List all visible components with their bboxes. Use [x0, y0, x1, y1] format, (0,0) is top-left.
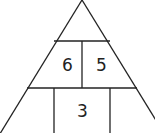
- cell-row3-middle: 3: [77, 101, 88, 121]
- number-pyramid: 6 5 3: [0, 0, 155, 133]
- cell-row2-left: 6: [62, 55, 73, 75]
- pyramid-right-edge: [82, 0, 155, 122]
- cell-row2-right: 5: [96, 55, 107, 75]
